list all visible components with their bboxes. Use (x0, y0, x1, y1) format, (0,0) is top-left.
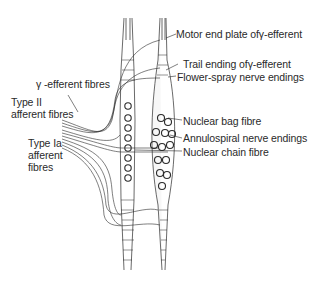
label-nuclear-bag-fibre: Nuclear bag fibre (183, 115, 261, 127)
label-type-ia-line1: Type Ia (28, 137, 62, 149)
label-annulospiral: Annulospiral nerve endings (183, 132, 307, 144)
label-flower-spray: Flower-spray nerve endings (177, 71, 304, 83)
nuclear-bag-fibre (151, 18, 176, 270)
label-type-ii-line1: Type II (11, 96, 42, 108)
label-motor-end-plate: Motor end plate ofγ-efferent (176, 28, 302, 40)
leader-lines (68, 34, 182, 151)
label-nuclear-chain-fibre: Nuclear chain fibre (183, 146, 269, 158)
nuclear-chain-fibre (120, 18, 135, 270)
label-gamma-efferent-fibres: γ -efferent fibres (36, 78, 110, 90)
label-type-ia-line3: fibres (28, 161, 53, 173)
label-trail-ending: Trail ending ofγ-efferent (183, 58, 291, 70)
label-type-ia-line2: afferent (28, 149, 63, 161)
label-type-ii-line2: afferent fibres (11, 108, 74, 120)
